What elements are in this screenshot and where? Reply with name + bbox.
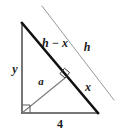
parallel-line-h: [42, 6, 114, 100]
label-hypotenuse-lower-x: x: [84, 80, 91, 94]
label-base-4: 4: [57, 117, 63, 131]
label-vertical-leg-y: y: [10, 62, 18, 76]
label-parallel-line-h: h: [84, 40, 91, 54]
label-altitude-a: a: [38, 75, 44, 87]
geometry-figure: h − x h y a x 4: [0, 0, 124, 135]
label-hypotenuse-upper: h − x: [42, 36, 68, 50]
figure-canvas: h − x h y a x 4: [0, 0, 124, 135]
